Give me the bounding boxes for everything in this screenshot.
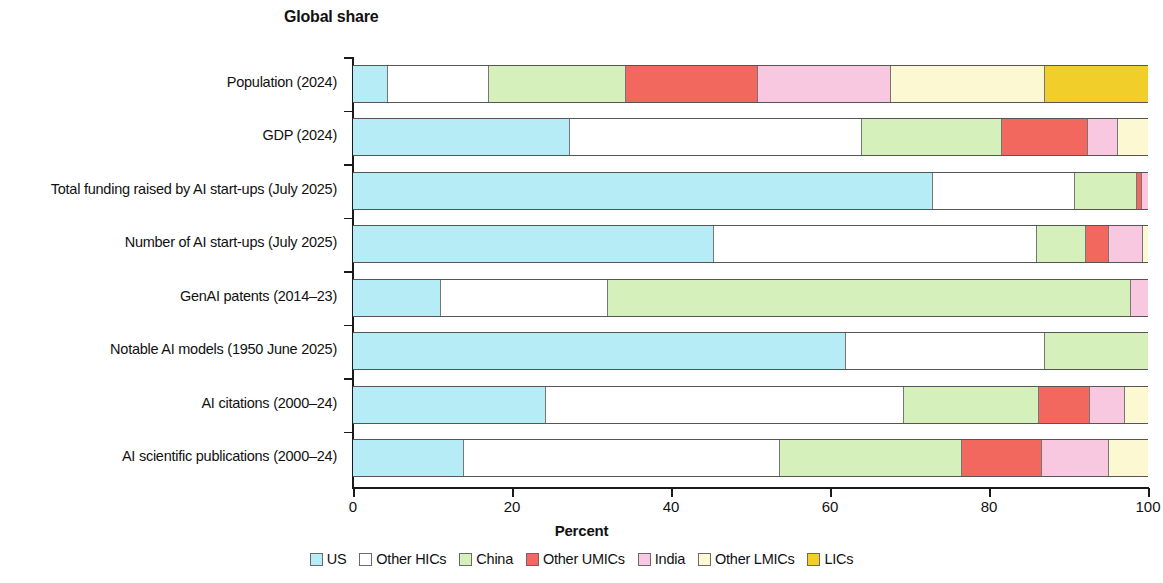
- bar-segment: [353, 280, 441, 316]
- x-axis-tick-label: 80: [981, 498, 998, 515]
- x-axis-line: [352, 487, 1149, 489]
- bar-row: [353, 332, 1148, 370]
- y-axis-tick: [344, 271, 353, 273]
- bar-segment: [714, 226, 1037, 262]
- y-axis-tick: [344, 57, 353, 59]
- legend-swatch-icon: [807, 553, 820, 566]
- bar-segment: [1109, 440, 1148, 476]
- legend-label: India: [655, 551, 685, 567]
- legend-swatch-icon: [359, 553, 372, 566]
- bar-segment: [1088, 119, 1117, 155]
- x-axis-tick-label: 0: [349, 498, 357, 515]
- bar-row: [353, 172, 1148, 210]
- legend-label: China: [476, 551, 513, 567]
- bar-segment: [353, 226, 714, 262]
- legend-item[interactable]: US: [310, 551, 347, 567]
- bar-segment: [891, 66, 1044, 102]
- y-axis-tick: [344, 432, 353, 434]
- y-axis-label: Total funding raised by AI start-ups (Ju…: [0, 181, 345, 197]
- x-axis-tick: [830, 488, 832, 497]
- bar-segment: [1131, 280, 1148, 316]
- legend-item[interactable]: Other HICs: [359, 551, 446, 567]
- bar-segment: [1125, 387, 1148, 423]
- legend-label: Other UMICs: [543, 551, 625, 567]
- bar-segment: [353, 173, 933, 209]
- x-axis-tick: [1148, 488, 1150, 497]
- x-axis-tick-label: 60: [822, 498, 839, 515]
- bar-segment: [846, 333, 1045, 369]
- x-axis-tick: [353, 488, 355, 497]
- bar-segment: [1045, 66, 1148, 102]
- bar-segment: [758, 66, 892, 102]
- bar-segment: [1075, 173, 1137, 209]
- bar-segment: [608, 280, 1131, 316]
- bar-segment: [570, 119, 862, 155]
- y-axis-label: GDP (2024): [0, 127, 345, 143]
- bar-segment: [489, 66, 627, 102]
- x-axis-tick-label: 100: [1135, 498, 1160, 515]
- legend-item[interactable]: Other LMICs: [698, 551, 794, 567]
- legend-item[interactable]: Other UMICs: [526, 551, 625, 567]
- y-axis-label: AI scientific publications (2000–24): [0, 448, 345, 464]
- y-axis-tick: [344, 325, 353, 327]
- bar-segment: [353, 387, 546, 423]
- x-axis-title: Percent: [0, 522, 1163, 539]
- chart-legend: USOther HICsChinaOther UMICsIndiaOther L…: [0, 551, 1163, 567]
- y-axis-label: Notable AI models (1950 June 2025): [0, 341, 345, 357]
- legend-label: LICs: [824, 551, 853, 567]
- bar-segment: [1118, 119, 1148, 155]
- bar-segment: [862, 119, 1002, 155]
- legend-swatch-icon: [638, 553, 651, 566]
- bar-segment: [1037, 226, 1086, 262]
- x-axis-tick: [512, 488, 514, 497]
- y-axis-tick: [344, 218, 353, 220]
- bar-segment: [353, 66, 388, 102]
- legend-item[interactable]: India: [638, 551, 685, 567]
- legend-label: Other HICs: [376, 551, 446, 567]
- bar-segment: [962, 440, 1042, 476]
- plot-area: [353, 57, 1148, 485]
- bar-segment: [546, 387, 904, 423]
- y-axis-label: Number of AI start-ups (July 2025): [0, 234, 345, 250]
- x-axis-tick-label: 20: [504, 498, 521, 515]
- bar-segment: [904, 387, 1039, 423]
- bar-segment: [353, 333, 846, 369]
- y-axis-label: AI citations (2000–24): [0, 395, 345, 411]
- legend-item[interactable]: China: [459, 551, 513, 567]
- bar-row: [353, 65, 1148, 103]
- bar-row: [353, 439, 1148, 477]
- bar-segment: [388, 66, 489, 102]
- bar-segment: [1143, 226, 1148, 262]
- bar-segment: [1045, 333, 1148, 369]
- y-axis-tick: [344, 378, 353, 380]
- bar-segment: [464, 440, 780, 476]
- bar-segment: [353, 440, 464, 476]
- bar-segment: [1142, 173, 1148, 209]
- bar-segment: [353, 119, 570, 155]
- bar-segment: [1109, 226, 1143, 262]
- bar-segment: [1086, 226, 1109, 262]
- legend-item[interactable]: LICs: [807, 551, 853, 567]
- bar-row: [353, 386, 1148, 424]
- bar-segment: [441, 280, 608, 316]
- bar-segment: [1039, 387, 1090, 423]
- legend-swatch-icon: [526, 553, 539, 566]
- legend-label: US: [327, 551, 347, 567]
- x-axis-tick-label: 40: [663, 498, 680, 515]
- bar-segment: [933, 173, 1075, 209]
- bar-segment: [1090, 387, 1125, 423]
- bar-row: [353, 118, 1148, 156]
- legend-swatch-icon: [310, 553, 323, 566]
- bar-segment: [1002, 119, 1089, 155]
- legend-swatch-icon: [698, 553, 711, 566]
- y-axis-tick: [344, 164, 353, 166]
- y-axis-label: GenAI patents (2014–23): [0, 288, 345, 304]
- legend-label: Other LMICs: [715, 551, 794, 567]
- chart-title: Global share: [284, 8, 379, 26]
- y-axis-tick: [344, 111, 353, 113]
- y-axis-label: Population (2024): [0, 74, 345, 90]
- bar-row: [353, 279, 1148, 317]
- bar-segment: [626, 66, 757, 102]
- x-axis-tick: [671, 488, 673, 497]
- stacked-bar-chart: Global share Population (2024)GDP (2024)…: [0, 0, 1163, 583]
